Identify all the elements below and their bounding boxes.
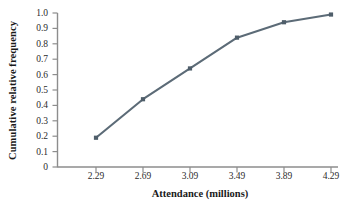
data-point-marker (94, 136, 98, 140)
data-point-markers (94, 12, 333, 139)
x-tick-marks (96, 167, 331, 173)
data-point-marker (141, 97, 145, 101)
data-point-marker (329, 12, 333, 16)
chart-figure: Cumulative relative frequency 1.0 0.9 0.… (0, 0, 343, 208)
y-tick-marks (53, 13, 58, 167)
plot-area (0, 0, 343, 208)
data-line-series-0 (96, 15, 331, 138)
data-point-marker (188, 66, 192, 70)
data-point-marker (235, 36, 239, 40)
data-point-marker (282, 20, 286, 24)
